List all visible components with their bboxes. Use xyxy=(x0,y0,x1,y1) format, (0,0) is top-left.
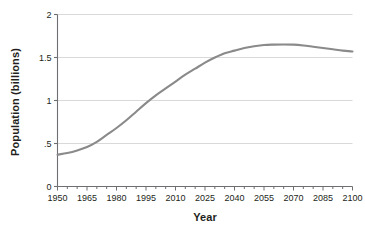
x-tick-label: 1950 xyxy=(47,193,67,203)
y-tick-label: 0 xyxy=(46,182,51,192)
x-tick-label: 2070 xyxy=(283,193,303,203)
plot-area: 0.511.52 1950196519801995201020252040205… xyxy=(0,0,365,236)
x-tick-label: 1995 xyxy=(136,193,156,203)
y-tick-label: 1 xyxy=(46,96,51,106)
y-axis xyxy=(54,15,58,187)
chart-figure: Population (billions) Year 0.511.52 1950… xyxy=(0,0,365,236)
x-axis xyxy=(58,187,353,191)
x-tick-label: 2040 xyxy=(224,193,244,203)
grid-lines xyxy=(58,15,353,144)
population-line xyxy=(58,44,353,154)
x-tick-label: 1980 xyxy=(106,193,126,203)
y-tick-label: 2 xyxy=(46,10,51,20)
y-tick-label: .5 xyxy=(44,139,52,149)
y-tick-label: 1.5 xyxy=(39,53,52,63)
x-tick-label: 2100 xyxy=(342,193,362,203)
x-tick-labels: 1950196519801995201020252040205520702085… xyxy=(47,193,362,203)
x-tick-label: 1965 xyxy=(77,193,97,203)
x-tick-label: 2055 xyxy=(254,193,274,203)
x-tick-label: 2025 xyxy=(195,193,215,203)
x-tick-label: 2085 xyxy=(313,193,333,203)
y-tick-labels: 0.511.52 xyxy=(39,10,52,192)
data-series-population xyxy=(58,44,353,154)
x-tick-label: 2010 xyxy=(165,193,185,203)
